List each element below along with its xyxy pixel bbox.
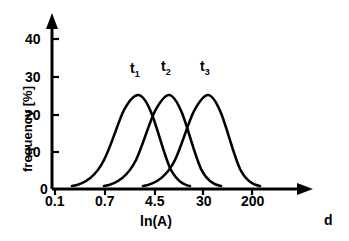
y-tick-label-30: 30 [25,69,41,85]
curve-label-t1: t1 [130,60,140,79]
x-tick-label-0: 0.1 [45,193,64,209]
y-axis-title: frequency [%] [20,86,35,172]
curve-label-t2: t2 [161,58,171,77]
curve-label-t2-sub: 2 [166,67,171,77]
x-tick-label-2: 4.5 [145,193,164,209]
y-tick-label-40: 40 [25,31,41,47]
x-axis-arrow-head [297,183,313,195]
y-axis-arrow-head [46,13,58,29]
curve-label-t3-sub: 3 [205,67,210,77]
figure-panel-letter: d [324,212,333,228]
x-axis-title: ln(A) [140,213,172,229]
curve-label-t1-sub: 1 [135,69,140,79]
x-tick-label-3: 30 [196,193,212,209]
curve-label-t3: t3 [200,58,210,77]
curve-t2 [104,95,221,186]
x-tick-label-1: 0.7 [95,193,114,209]
curve-t1 [72,95,190,186]
x-tick-label-4: 200 [241,193,264,209]
